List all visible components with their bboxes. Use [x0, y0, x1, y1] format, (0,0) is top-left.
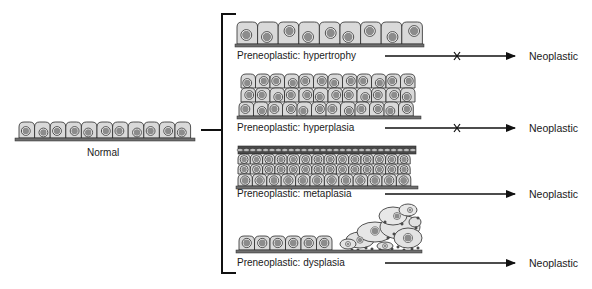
diagram-canvas [0, 0, 592, 289]
hyperplasia-epithelium [237, 74, 421, 119]
outcome-label-metaplasia: Neoplastic [529, 188, 578, 200]
metaplasia-epithelium [236, 146, 418, 189]
hypertrophy-epithelium [235, 22, 424, 47]
carcinogenesis-diagram: Normal Preneoplastic: hypertrophy Preneo… [0, 0, 592, 289]
outcome-label-hypertrophy: Neoplastic [529, 50, 578, 62]
stage-label-dysplasia: Preneoplastic: dysplasia [237, 257, 345, 269]
outcome-label-hyperplasia: Neoplastic [529, 122, 578, 134]
stage-label-hyperplasia: Preneoplastic: hyperplasia [237, 122, 354, 134]
outcome-label-dysplasia: Neoplastic [529, 257, 578, 269]
branch-bracket [201, 14, 236, 273]
normal-label: Normal [87, 147, 119, 159]
stage-label-hypertrophy: Preneoplastic: hypertrophy [237, 50, 356, 62]
normal-epithelium [15, 122, 195, 141]
stage-label-metaplasia: Preneoplastic: metaplasia [237, 188, 352, 200]
dysplasia-epithelium [236, 204, 422, 253]
